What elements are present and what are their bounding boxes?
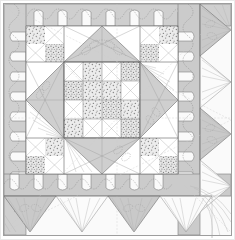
star-corner-bl [26,138,64,174]
star-point-left [26,62,64,138]
star-corner-br [140,138,178,174]
star-corner-tr [140,26,178,62]
quilt-diagram [0,0,235,240]
sawtooth-star-block [26,26,178,174]
star-point-top [64,26,140,62]
star-point-bottom [64,138,140,174]
quilt-pattern-canvas: Sawtooth Star Quilt Block with Scalloped… [0,0,235,240]
star-center-checkerboard [64,62,140,138]
bottom-scallop-border [4,174,231,196]
star-point-right [140,62,178,138]
star-corner-tl [26,26,64,62]
